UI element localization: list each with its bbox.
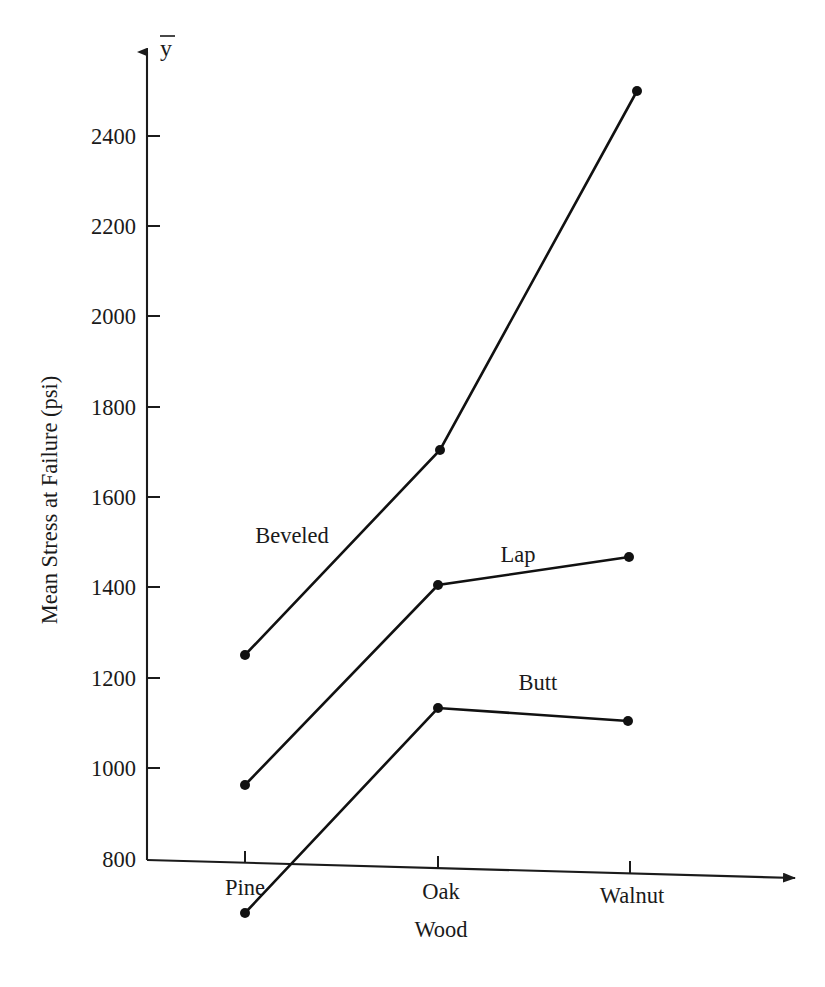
y-axis-title: Mean Stress at Failure (psi) [37,376,62,625]
y-tick-label-2200: 2200 [91,214,136,239]
series-lap-point-oak [433,580,443,590]
series-butt-point-pine [240,908,250,918]
series-lap-point-pine [240,780,250,790]
series-beveled-point-walnut [632,86,642,96]
x-tick-label-walnut: Walnut [600,883,665,908]
series-beveled-line [245,91,637,655]
y-tick-label-2000: 2000 [91,304,136,329]
y-tick-label-1200: 1200 [91,666,136,691]
x-axis-ticks [245,851,630,873]
series-butt-point-oak [433,703,443,713]
series-beveled: Beveled [240,86,642,660]
series-lap-point-walnut [624,552,634,562]
figure-root: 2400 2200 2000 1800 1600 1400 1200 1000 … [0,0,825,987]
series-label-butt: Butt [519,670,559,695]
series-butt-point-walnut [623,716,633,726]
y-axis-ticks [147,136,160,768]
series-beveled-point-pine [240,650,250,660]
x-tick-label-oak: Oak [422,879,460,904]
y-axis: 2400 2200 2000 1800 1600 1400 1200 1000 … [37,35,175,872]
y-bar-symbol: y [160,35,175,61]
series-label-beveled: Beveled [255,523,329,548]
y-tick-label-2400: 2400 [91,124,136,149]
y-axis-tick-labels: 2400 2200 2000 1800 1600 1400 1200 1000 … [91,124,136,872]
y-tick-label-1800: 1800 [91,395,136,420]
x-axis-title: Wood [414,917,467,942]
y-bar-symbol-letter: y [160,35,172,61]
series-beveled-point-oak [435,445,445,455]
y-tick-label-1000: 1000 [91,756,136,781]
x-axis: Pine Oak Walnut Wood [147,851,795,942]
y-tick-label-1400: 1400 [91,575,136,600]
series-lap-line [245,557,629,785]
series-label-lap: Lap [501,542,536,567]
y-tick-label-1600: 1600 [91,485,136,510]
y-tick-label-800: 800 [102,847,136,872]
series-lap: Lap [240,542,634,790]
interaction-plot-chart: 2400 2200 2000 1800 1600 1400 1200 1000 … [0,0,825,987]
x-axis-tick-labels: Pine Oak Walnut [225,875,665,908]
